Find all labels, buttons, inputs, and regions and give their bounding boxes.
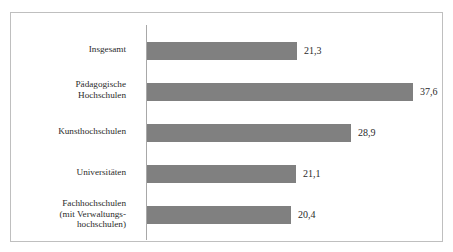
horizontal-bar-chart: Insgesamt 21,3 Pädagogische Hochschulen … bbox=[0, 0, 453, 252]
bar-category-label: Universitäten bbox=[0, 167, 136, 178]
bar-value-label: 21,3 bbox=[304, 46, 322, 56]
bar-category-label: Pädagogische Hochschulen bbox=[0, 79, 136, 100]
bar-rect bbox=[147, 42, 297, 60]
bar-category-label: Insgesamt bbox=[0, 44, 136, 55]
bar-value-label: 20,4 bbox=[298, 210, 316, 220]
bar-category-label: Fachhochschulen (mit Verwaltungs- hochsc… bbox=[0, 198, 136, 230]
bar-rect bbox=[147, 83, 413, 101]
bar-rect bbox=[147, 206, 291, 224]
bar-value-label: 21,1 bbox=[303, 169, 321, 179]
bar-value-label: 28,9 bbox=[358, 128, 376, 138]
bar-category-label: Kunsthochschulen bbox=[0, 126, 136, 137]
bar-value-label: 37,6 bbox=[420, 87, 438, 97]
bar-rect bbox=[147, 165, 296, 183]
plot-area: Insgesamt 21,3 Pädagogische Hochschulen … bbox=[0, 0, 453, 252]
bar-rect bbox=[147, 124, 351, 142]
